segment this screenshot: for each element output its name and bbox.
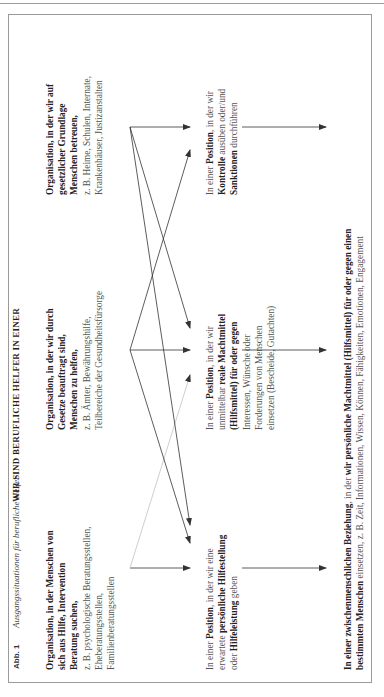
arrow-b-to-pos1 (130, 350, 190, 543)
arrow-b-to-pos3 (130, 150, 190, 350)
arrow-a-to-pos2 (130, 375, 190, 568)
arrow-c-to-pos2 (130, 127, 190, 328)
arrow-layer (8, 15, 372, 683)
arrow-c-to-pos1 (130, 127, 190, 525)
page-top-rule (0, 3, 384, 4)
rotated-diagram: Abb. 1 Ausgangssituationen für beruflich… (8, 15, 372, 683)
